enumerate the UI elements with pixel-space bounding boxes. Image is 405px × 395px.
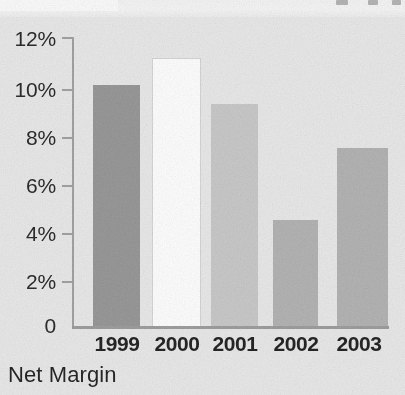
x-tick-label-2001: 2001	[202, 333, 268, 354]
y-tick-mark-2	[62, 281, 74, 283]
y-axis-line	[72, 37, 74, 328]
y-tick-label-12: 12%	[0, 28, 56, 49]
x-tick-label-2003: 2003	[326, 333, 392, 354]
chart-caption: Net Margin	[8, 364, 117, 386]
y-tick-label-2: 2%	[0, 271, 56, 292]
bar-1999	[93, 85, 140, 326]
x-axis-line	[72, 326, 389, 329]
bar-2002	[273, 220, 318, 326]
bar-2001	[211, 104, 258, 326]
y-tick-mark-6	[62, 185, 74, 187]
y-tick-mark-4	[62, 233, 74, 235]
y-tick-label-4: 4%	[0, 223, 56, 244]
bar-chart-plot: 12% 10% 8% 6% 4% 2% 0 1999 2000 2001 200…	[0, 0, 405, 395]
y-tick-label-0: 0	[0, 315, 56, 336]
y-tick-mark-12	[62, 37, 74, 39]
y-tick-label-8: 8%	[0, 127, 56, 148]
x-tick-label-2000: 2000	[144, 333, 210, 354]
bar-2003	[337, 148, 388, 326]
y-tick-mark-8	[62, 137, 74, 139]
y-tick-label-6: 6%	[0, 175, 56, 196]
bar-2000	[153, 59, 200, 326]
chart-page: 12% 10% 8% 6% 4% 2% 0 1999 2000 2001 200…	[0, 0, 405, 395]
x-tick-label-1999: 1999	[84, 333, 150, 354]
y-tick-mark-10	[62, 89, 74, 91]
y-tick-label-10: 10%	[0, 79, 56, 100]
x-tick-label-2002: 2002	[263, 333, 329, 354]
